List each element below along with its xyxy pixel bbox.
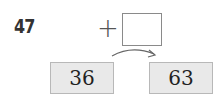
curved-arrow-icon: [108, 45, 160, 61]
answer-input-box[interactable]: [122, 13, 162, 46]
problem-number: 47: [14, 14, 35, 38]
start-value-box: 36: [50, 62, 114, 94]
end-value-box: 63: [149, 62, 213, 94]
plus-sign: +: [97, 15, 119, 41]
